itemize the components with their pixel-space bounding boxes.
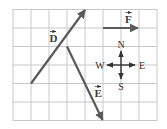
vector-diagram: D E F N S W E xyxy=(0,0,167,129)
svg-text:E: E xyxy=(95,87,102,99)
svg-text:F: F xyxy=(125,13,132,25)
compass-west-label: W xyxy=(95,60,105,71)
vector-e-label: E xyxy=(95,87,102,100)
compass-north-label: N xyxy=(117,39,124,50)
grid xyxy=(13,10,157,121)
vector-f-label: F xyxy=(125,13,132,26)
vector-d-label: D xyxy=(50,32,58,45)
compass-east-label: E xyxy=(139,60,145,71)
svg-text:D: D xyxy=(50,32,58,44)
compass-south-label: S xyxy=(118,81,124,92)
